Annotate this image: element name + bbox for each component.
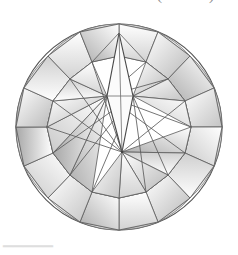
- culet-point: [121, 151, 123, 153]
- gemstone-diagram: [0, 0, 238, 255]
- figure-page: ΔΣ Γ ΛΛ Λ Ι Λ Γ Γ ΔΓ ( Λ Λ Λ ): [0, 0, 238, 255]
- bottom-caption-text: ▁▁▁▁▁: [3, 243, 53, 248]
- gemstone-facet-svg: [0, 0, 238, 255]
- bottom-caption-cropped: ▁▁▁▁▁: [0, 243, 238, 255]
